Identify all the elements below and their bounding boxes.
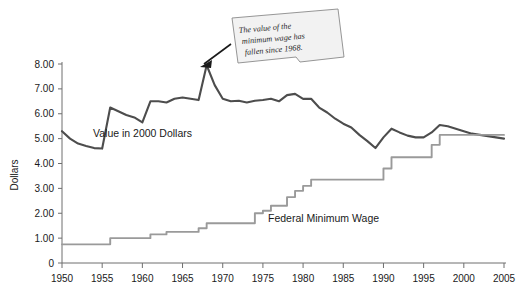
chart-canvas: 01.002.003.004.005.006.007.008.00 195019… bbox=[0, 0, 519, 296]
y-axis-title: Dollars bbox=[9, 159, 20, 190]
x-tick-label: 1950 bbox=[51, 273, 74, 284]
x-tick-label: 1970 bbox=[212, 273, 235, 284]
x-tick-label: 1980 bbox=[292, 273, 315, 284]
y-tick-label: 4.00 bbox=[35, 158, 55, 169]
y-tick-label: 8.00 bbox=[35, 59, 55, 70]
minimum-wage-chart: 01.002.003.004.005.006.007.008.00 195019… bbox=[0, 0, 519, 296]
x-tick-label: 1955 bbox=[91, 273, 114, 284]
y-tick-label: 2.00 bbox=[35, 208, 55, 219]
y-tick-label: 6.00 bbox=[35, 108, 55, 119]
x-tick-label: 1960 bbox=[131, 273, 154, 284]
x-tick-label: 1965 bbox=[171, 273, 194, 284]
x-tick-label: 1990 bbox=[372, 273, 395, 284]
x-tick-label: 1985 bbox=[332, 273, 355, 284]
y-tick-label: 7.00 bbox=[35, 83, 55, 94]
series-label-value-in-2000-dollars: Value in 2000 Dollars bbox=[93, 127, 192, 139]
y-tick-label: 0 bbox=[48, 258, 54, 269]
x-tick-label: 2005 bbox=[493, 273, 516, 284]
x-tick-label: 1975 bbox=[252, 273, 275, 284]
x-tick-label: 1995 bbox=[413, 273, 436, 284]
y-tick-label: 5.00 bbox=[35, 133, 55, 144]
y-tick-label: 3.00 bbox=[35, 183, 55, 194]
y-tick-label: 1.00 bbox=[35, 233, 55, 244]
series-label-federal-minimum-wage: Federal Minimum Wage bbox=[268, 212, 379, 224]
x-tick-label: 2000 bbox=[453, 273, 476, 284]
